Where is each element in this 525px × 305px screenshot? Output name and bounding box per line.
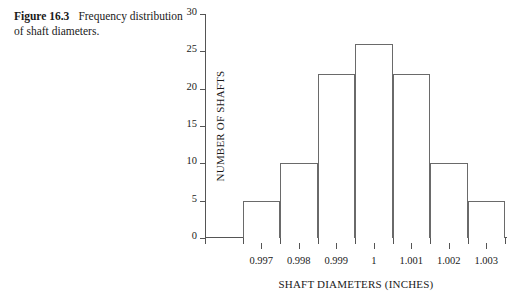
y-tick-label: 20	[187, 81, 198, 92]
x-edge-tick	[205, 238, 206, 244]
x-tick-mark	[336, 243, 337, 249]
histogram-bar	[393, 74, 431, 238]
y-tick-label: 15	[187, 118, 198, 129]
x-tick-mark	[374, 243, 375, 249]
y-axis-title: NUMBER OF SHAFTS	[214, 71, 226, 182]
histogram-bar	[430, 163, 468, 238]
y-tick-mark	[200, 201, 205, 202]
y-tick-label: 5	[192, 193, 197, 204]
histogram-bar	[355, 44, 393, 238]
x-tick-mark	[411, 243, 412, 249]
figure-number: Figure 16.3	[14, 10, 69, 22]
x-tick-label: 1.002	[437, 255, 461, 266]
histogram-chart: 051015202530 0.9970.9980.99911.0011.0021…	[160, 8, 515, 298]
y-tick-label: 0	[192, 230, 197, 241]
histogram-bar	[318, 74, 356, 238]
histogram-bar	[468, 201, 506, 238]
histogram-bar	[280, 163, 318, 238]
y-tick-label: 10	[187, 155, 198, 166]
y-tick-label: 25	[187, 43, 198, 54]
x-tick-label: 1	[371, 255, 376, 266]
y-tick-mark	[200, 51, 205, 52]
y-tick-label: 30	[187, 6, 198, 17]
x-tick-mark	[261, 243, 262, 249]
x-tick-mark	[299, 243, 300, 249]
x-tick-label: 0.997	[249, 255, 273, 266]
x-edge-tick	[468, 238, 469, 244]
histogram-bar	[243, 201, 281, 238]
x-edge-tick	[280, 238, 281, 244]
x-tick-label: 0.999	[324, 255, 348, 266]
x-edge-tick	[393, 238, 394, 244]
x-tick-mark	[449, 243, 450, 249]
y-tick-mark	[200, 126, 205, 127]
x-tick-mark	[486, 243, 487, 249]
x-edge-tick	[355, 238, 356, 244]
y-tick-mark	[200, 163, 205, 164]
figure-caption: Figure 16.3Frequency distribution of sha…	[14, 9, 184, 38]
x-tick-label: 1.001	[399, 255, 423, 266]
y-axis-line	[205, 14, 206, 238]
y-tick-mark	[200, 89, 205, 90]
x-edge-tick	[505, 238, 506, 244]
x-edge-tick	[318, 238, 319, 244]
x-tick-label: 1.003	[474, 255, 498, 266]
x-tick-label: 0.998	[287, 255, 311, 266]
y-tick-mark	[200, 14, 205, 15]
x-axis-title: SHAFT DIAMETERS (INCHES)	[205, 278, 507, 290]
plot-area: 051015202530 0.9970.9980.99911.0011.0021…	[205, 14, 505, 238]
figure-page: Figure 16.3Frequency distribution of sha…	[0, 0, 525, 305]
x-edge-tick	[243, 238, 244, 244]
x-edge-tick	[430, 238, 431, 244]
